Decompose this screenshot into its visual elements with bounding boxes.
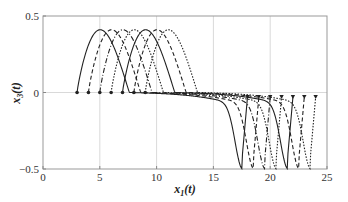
start-marker [143, 91, 147, 95]
y-tick-label: −0.5 [19, 163, 39, 175]
start-marker [121, 91, 125, 95]
start-marker [87, 91, 91, 95]
trajectory-line [134, 30, 304, 169]
start-marker [132, 91, 136, 95]
start-marker [75, 91, 79, 95]
x-tick-label: 25 [322, 171, 334, 183]
x-axis-label: x1(t) [173, 182, 195, 198]
trajectory-line [100, 30, 270, 169]
x-tick-label: 5 [97, 171, 103, 183]
start-marker [98, 91, 102, 95]
x-tick-label: 10 [151, 171, 163, 183]
x-tick-label: 0 [40, 171, 46, 183]
chart: 0510152025−0.500.5 x1(t) x3(t) [0, 0, 348, 202]
x-tick-label: 15 [208, 171, 220, 183]
end-marker [291, 95, 295, 99]
start-marker [109, 91, 113, 95]
end-marker [313, 95, 317, 99]
y-axis-label: x3(t) [9, 82, 25, 104]
trajectory-line [145, 30, 315, 169]
end-marker [302, 95, 306, 99]
y-tick-label: 0.5 [25, 10, 39, 22]
y-tick-label: 0 [34, 87, 40, 99]
series-group [75, 30, 318, 169]
x-tick-label: 20 [265, 171, 277, 183]
